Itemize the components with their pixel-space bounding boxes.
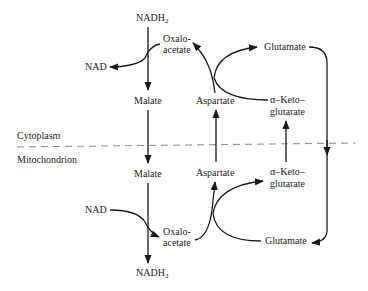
cyto-nad-label: NAD	[85, 61, 107, 72]
mito-nadh2-label: NADH2	[136, 267, 169, 280]
cyto-aspartate-label: Aspartate	[196, 95, 235, 106]
cyto-malate-label: Malate	[134, 95, 162, 106]
mito-glutamate-label: Glutamate	[265, 235, 307, 246]
mito-oxaloacetate-label-2: acetate	[163, 237, 191, 248]
cyto-oxaloacetate-label-1: Oxalo-	[163, 33, 191, 44]
mitochondrion-label: Mitochondrion	[17, 154, 77, 165]
malate-aspartate-shuttle-diagram: Cytoplasm Mitochondrion NADH2 NAD Oxalo-…	[0, 0, 368, 291]
mito-glutamate-connector	[213, 214, 261, 241]
mito-nad-label: NAD	[85, 204, 107, 215]
cyto-glutamate-label: Glutamate	[264, 41, 306, 52]
cyto-akg-label-2: glutarate	[270, 106, 306, 117]
mito-akg-label-1: α–Keto–	[270, 166, 306, 177]
cyto-aspartate-to-oxaloacetate-arrow	[193, 43, 215, 93]
mito-akg-label-2: glutarate	[270, 178, 306, 189]
cyto-nadh2-label: NADH2	[136, 12, 169, 25]
cyto-akg-label-1: α–Keto–	[270, 94, 306, 105]
glutamate-to-mito-glutamate-arrow	[312, 230, 327, 243]
glutamate-transport-line	[309, 47, 327, 230]
mito-nad-to-oxaloacetate-arrow	[110, 210, 159, 237]
cytoplasm-label: Cytoplasm	[17, 130, 61, 141]
mitochondrial-membrane-line	[17, 143, 356, 147]
mito-glutamate-to-akg-arrow	[213, 181, 263, 214]
cyto-oxaloacetate-to-nad-arrow	[110, 44, 160, 67]
mito-aspartate-label: Aspartate	[196, 167, 235, 178]
cyto-akg-to-glutamate-arrow	[214, 47, 257, 78]
mito-malate-label: Malate	[134, 168, 162, 179]
cyto-oxaloacetate-label-2: acetate	[163, 44, 191, 55]
mito-oxaloacetate-label-1: Oxalo-	[163, 226, 191, 237]
mito-oxaloacetate-to-aspartate-arrow	[195, 182, 215, 240]
